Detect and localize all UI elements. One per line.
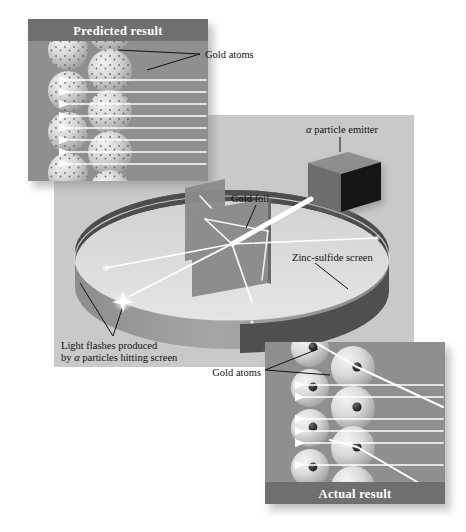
gold-foil-face xyxy=(192,198,268,297)
actual-result-title: Actual result xyxy=(319,487,392,501)
flash-glow-2 xyxy=(102,264,111,273)
alpha-emitter-text: particle emitter xyxy=(312,124,379,135)
atom-with-nucleus xyxy=(291,409,329,447)
alpha-particle-emitter-label: α particle emitter xyxy=(306,124,378,135)
figure-canvas: α particle emitter Gold foil Zinc-sulfid… xyxy=(0,0,466,532)
light-flashes-pre: by xyxy=(61,352,74,363)
atom xyxy=(88,49,132,93)
rutherford-experiment-diagram: α particle emitter Gold foil Zinc-sulfid… xyxy=(0,0,466,532)
light-flashes-label-line1: Light flashes produced xyxy=(61,340,158,351)
light-flash-secondary xyxy=(102,264,111,273)
floor-speck xyxy=(250,320,253,323)
gold-foil xyxy=(192,198,271,297)
atom-with-nucleus xyxy=(331,386,375,430)
atom xyxy=(88,131,132,175)
atom-with-nucleus xyxy=(291,449,329,487)
light-flashes-post: particles hitting screen xyxy=(80,352,178,363)
atom xyxy=(48,71,88,111)
predicted-result-title: Predicted result xyxy=(73,24,163,38)
nucleus xyxy=(309,463,318,472)
alpha-particle-emitter xyxy=(308,152,381,212)
atom-with-nucleus xyxy=(331,346,375,390)
gold-atoms-top-label: Gold atoms xyxy=(205,49,254,60)
atom xyxy=(48,112,88,152)
atom-with-nucleus xyxy=(331,426,375,470)
gold-foil-label: Gold foil xyxy=(231,193,269,204)
nucleus xyxy=(309,423,318,432)
gold-foil-edge xyxy=(268,198,271,284)
gold-atoms-bottom-label: Gold atoms xyxy=(212,367,261,378)
nucleus xyxy=(309,383,318,392)
zinc-sulfide-screen-label: Zinc-sulfide screen xyxy=(292,252,374,263)
beam-endpoint-glow xyxy=(374,235,381,242)
nucleus xyxy=(352,402,361,411)
light-flashes-label-line2: by α particles hitting screen xyxy=(61,352,178,363)
